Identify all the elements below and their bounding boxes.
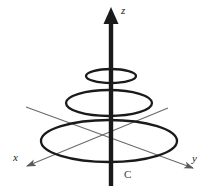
z-axis-label: z xyxy=(120,4,126,16)
y-axis-label: y xyxy=(191,152,197,164)
x-axis-label: x xyxy=(12,151,18,163)
z-axis-arrowhead xyxy=(104,7,119,24)
curve-label-c: C xyxy=(124,168,131,180)
math-diagram-canvas: z x y C xyxy=(0,0,214,195)
z-axis xyxy=(104,7,119,186)
figure-root: z x y C xyxy=(0,0,214,195)
